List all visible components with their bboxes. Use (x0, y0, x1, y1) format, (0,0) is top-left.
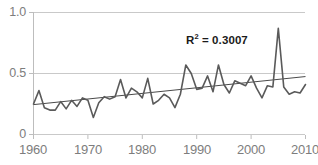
x-tick-label-3: 1980 (121, 143, 163, 157)
x-tick-marks (34, 135, 306, 139)
y-tick-label-1: 1.0 (0, 6, 26, 18)
x-tick-label-1: 1960 (12, 143, 54, 157)
r2-suffix: = 0.3007 (199, 34, 248, 46)
x-tick-label-4: 1990 (176, 143, 218, 157)
y-tick-label-2: 0.5 (0, 67, 26, 79)
y-tick-label-3: 0 (0, 128, 26, 140)
chart-container: 1.0 0.5 0 1960 1970 1980 1990 2000 2010 … (0, 0, 318, 165)
y-tick-marks (29, 13, 33, 135)
x-tick-label-5: 2000 (230, 143, 272, 157)
gridlines (33, 13, 305, 135)
plot-area (0, 0, 318, 165)
x-tick-label-6: 2010 (284, 143, 318, 157)
data-series-line (34, 28, 306, 117)
x-tick-label-2: 1970 (67, 143, 109, 157)
r-squared-annotation: R2 = 0.3007 (186, 34, 248, 46)
